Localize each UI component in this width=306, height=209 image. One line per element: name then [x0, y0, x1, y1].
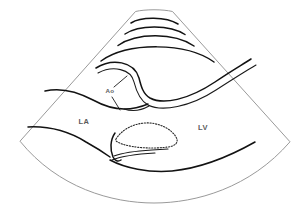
sector-outline	[20, 10, 290, 203]
label-ao: Ao	[106, 87, 115, 94]
sector-scan-canvas: LA LV Ao	[0, 0, 306, 209]
label-la: LA	[79, 117, 90, 126]
label-lv: LV	[198, 123, 208, 132]
echocardiogram-diagram: LA LV Ao	[0, 0, 306, 209]
